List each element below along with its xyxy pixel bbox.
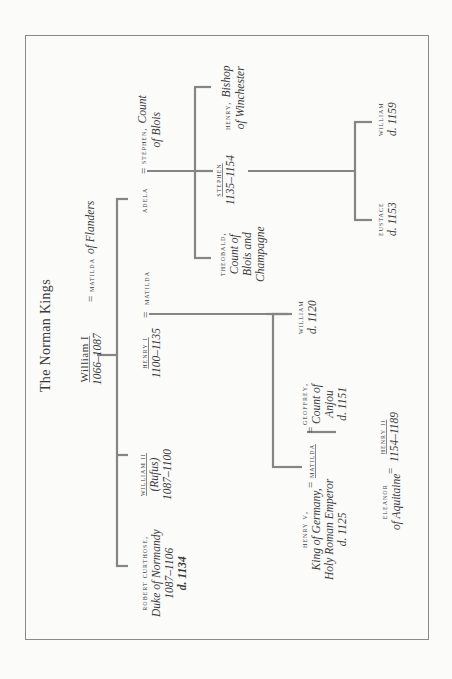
person-name: Geoffrey, [300, 383, 310, 425]
person-name: William I [78, 333, 91, 385]
marriage-sign: = [300, 478, 318, 492]
chart-title: The Norman Kings [38, 279, 54, 392]
person-henry-i: Henry I 1100–1135 [140, 328, 163, 378]
reign-dates: 1154–1189 [388, 412, 401, 462]
person-theobald: Theobald, Count of Blois and Champagne [218, 226, 267, 282]
person-name: Adela [139, 188, 149, 213]
person-henry-bishop-of-winchester: Henry, Bishop of Winchester [216, 66, 248, 130]
person-name: Eleanor [380, 474, 390, 530]
reign-dates: 1087–1100 [161, 449, 174, 500]
person-name: Stephen [214, 155, 224, 205]
person-name: Matilda [306, 444, 316, 478]
reign-dates: 1066–1087 [91, 333, 104, 385]
person-name: Henry I [140, 328, 150, 378]
person-matilda-of-flanders: Matilda of Flanders [80, 201, 98, 292]
person-name: Henry V, [300, 479, 310, 580]
person-geoffrey-of-anjou: Geoffrey, Count of Anjou d. 1151 [300, 383, 349, 425]
reign-dates: 1135–1154 [224, 155, 237, 205]
person-william-ii: William II (Rufus) 1087–1100 [138, 449, 174, 500]
person-robert-curthose: Robert Curthose, Duke of Normandy 1087–1… [140, 529, 189, 617]
marriage-sign: = [80, 292, 98, 306]
person-name: Theobald, [218, 226, 228, 282]
person-eleanor-of-aquitaine: Eleanor of Aquitaine [380, 474, 403, 530]
person-name: William [296, 300, 306, 334]
person-name: Matilda [86, 258, 96, 292]
marriage-sign: = [380, 464, 398, 478]
person-name: Eustace [376, 202, 386, 236]
person-empress-matilda: Matilda [300, 444, 318, 478]
marriage-sign: = [133, 164, 151, 178]
person-stephen-king: Stephen 1135–1154 [214, 155, 237, 205]
person-william-d-1120: William d. 1120 [296, 300, 319, 334]
person-stephen-count-of-blois: Stephen, Count of Blois [132, 95, 164, 164]
person-william-d-1159: William d. 1159 [376, 102, 399, 136]
person-title: of Flanders [84, 201, 96, 254]
person-name: Henry II [378, 412, 388, 462]
person-eustace: Eustace d. 1153 [376, 202, 399, 236]
person-henry-v: Henry V, King of Germany, Holy Roman Emp… [300, 479, 349, 580]
person-henry-ii: Henry II 1154–1189 [378, 412, 401, 462]
person-name: William [376, 102, 386, 136]
person-name: Stephen, [138, 128, 148, 164]
reign-dates: 1100–1135 [150, 328, 163, 378]
person-name: William II [138, 449, 148, 500]
marriage-sign: = [135, 308, 153, 322]
person-matilda-wife-of-henry-i: Matilda [135, 271, 153, 305]
person-william-i: William I 1066–1087 [78, 333, 104, 385]
person-adela: Adela [133, 188, 151, 213]
person-name: Robert Curthose, [140, 529, 150, 617]
person-name: Matilda [141, 271, 151, 305]
person-name: Henry, [222, 102, 232, 130]
